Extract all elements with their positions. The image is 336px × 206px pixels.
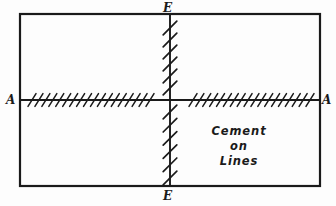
annotation-line-2: on [196,139,282,154]
cement-on-lines-annotation: Cement on Lines [196,124,282,169]
figure-container: E E A A Cement on Lines [0,0,336,206]
annotation-line-3: Lines [196,154,282,169]
axis-label-e-top: E [163,2,172,14]
annotation-line-1: Cement [196,124,282,139]
axis-label-a-right: A [322,94,331,106]
diagram-canvas [0,0,336,206]
axis-label-e-bottom: E [163,190,172,202]
axis-label-a-left: A [6,94,15,106]
